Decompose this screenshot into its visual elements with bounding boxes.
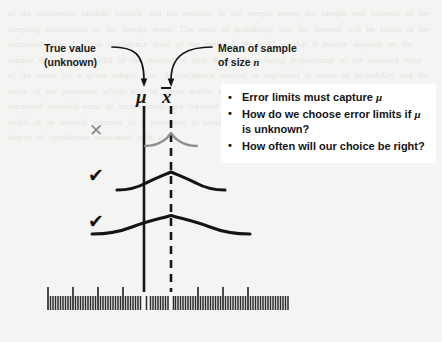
measurement-scale: [48, 287, 288, 310]
bullet-list: Error limits must capture μ How do we ch…: [225, 90, 430, 154]
ruler-minor-ticks: [51, 296, 289, 310]
bullet-capture: Error limits must capture μ: [225, 90, 430, 106]
sample-size-symbol: n: [254, 57, 260, 68]
callout-mean-line2-prefix: of size: [218, 56, 254, 68]
callout-true-value-line1: True value: [44, 42, 97, 56]
callout-mean-line1: Mean of sample: [218, 42, 297, 56]
verdict-mark-interval-3: ✔: [88, 212, 104, 231]
verdict-mark-interval-1: ✕: [89, 122, 103, 139]
xbar-symbol: x: [162, 86, 172, 108]
figure-canvas: of the continuous random variable and th…: [0, 0, 442, 342]
mu-symbol: μ: [136, 86, 147, 108]
callout-mean-line2: of size n: [218, 56, 297, 70]
callout-arrow-true-value: [112, 47, 147, 87]
callout-true-value-line2: (unknown): [44, 56, 97, 70]
bullet-how-often: How often will our choice be right?: [225, 139, 430, 155]
bullet-panel: Error limits must capture μ How do we ch…: [221, 84, 436, 163]
callout-arrow-mean-of-sample: [168, 47, 212, 87]
callout-true-value: True value (unknown): [44, 42, 97, 69]
callout-mean-of-sample: Mean of sample of size n: [218, 42, 297, 69]
verdict-mark-interval-2: ✔: [88, 166, 104, 185]
xbar-overbar: x: [162, 86, 172, 108]
bullet-choose-limits: How do we choose error limits if μ is un…: [225, 107, 430, 138]
